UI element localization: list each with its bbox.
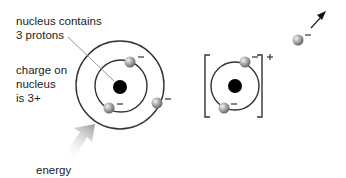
nucleus bbox=[113, 80, 127, 94]
electron-outer bbox=[152, 98, 163, 109]
energy-arrow-icon bbox=[64, 124, 95, 162]
nucleus-label-line1: nucleus contains bbox=[16, 14, 102, 28]
nucleus-label-line2: 3 protons bbox=[16, 28, 64, 42]
plus-sign bbox=[267, 54, 273, 60]
arrow-up-right-icon bbox=[317, 11, 326, 20]
left-bracket bbox=[205, 55, 210, 117]
ion-electron-top bbox=[240, 57, 251, 68]
charge-label-line1: charge on bbox=[16, 63, 67, 77]
charge-label-line3: is 3+ bbox=[16, 91, 41, 105]
charge-label-line2: nucleus bbox=[16, 77, 56, 91]
ion-nucleus bbox=[228, 79, 242, 93]
free-electron bbox=[293, 11, 327, 46]
electron-inner-top bbox=[125, 57, 136, 68]
electron bbox=[293, 35, 304, 46]
energy-label: energy bbox=[36, 163, 71, 177]
lithium-ion bbox=[205, 54, 273, 117]
electron-inner-bottom bbox=[104, 103, 115, 114]
lithium-atom bbox=[68, 37, 171, 129]
ion-electron-bottom bbox=[219, 103, 230, 114]
